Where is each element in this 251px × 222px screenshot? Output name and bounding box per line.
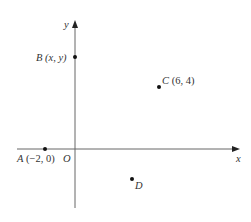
point-d [130, 177, 134, 181]
point-b-label: B (x, y) [36, 52, 67, 64]
y-axis-label: y [63, 19, 69, 30]
point-a-label: A (−2, 0) [16, 153, 55, 165]
point-c [157, 85, 161, 89]
coordinate-plane: x y O A (−2, 0) B (x, y) C (6, 4) D [0, 0, 251, 222]
origin-label: O [63, 153, 71, 164]
x-axis-arrow-icon [232, 146, 240, 152]
point-d-label: D [134, 180, 143, 191]
y-axis-arrow-icon [72, 20, 78, 28]
x-axis-label: x [235, 153, 241, 164]
point-b [73, 55, 77, 59]
point-c-label: C (6, 4) [162, 75, 195, 87]
point-a [43, 147, 47, 151]
